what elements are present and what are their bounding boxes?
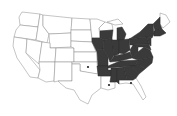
state-wy <box>49 33 71 48</box>
range-map <box>0 0 177 116</box>
state-az <box>38 62 55 82</box>
record-dot-oklahoma <box>87 66 89 68</box>
state-fl <box>118 78 146 100</box>
record-dot-florida <box>130 82 132 84</box>
record-dot-louisiana <box>108 84 110 86</box>
state-me <box>160 13 170 28</box>
state-wa <box>19 12 40 27</box>
state-nm <box>54 62 72 82</box>
state-ny <box>129 24 154 39</box>
state-co <box>55 48 74 62</box>
state-mi-south <box>117 27 126 40</box>
state-nd <box>71 18 91 30</box>
state-ks <box>74 52 97 62</box>
state-ms <box>110 68 117 82</box>
state-sd <box>71 30 92 42</box>
state-oh <box>119 39 130 54</box>
state-mt <box>43 15 72 34</box>
